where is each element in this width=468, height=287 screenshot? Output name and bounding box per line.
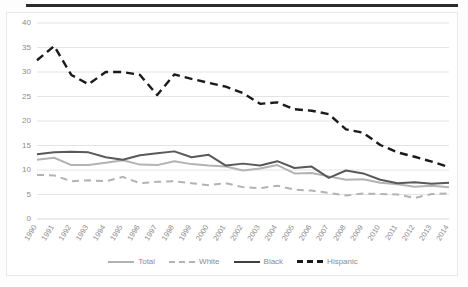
legend-item-white: White — [169, 257, 219, 266]
x-axis-tick-label: 2000 — [194, 223, 210, 242]
chart-card: 0510152025303540199019911992199319941995… — [6, 12, 458, 276]
legend-swatch-white — [169, 261, 195, 263]
x-axis-tick-label: 2009 — [348, 223, 364, 242]
legend-label-black: Black — [264, 257, 284, 266]
series-line-total — [37, 158, 449, 187]
x-axis-tick-label: 2008 — [331, 223, 347, 242]
y-axis-tick-label: 25 — [22, 92, 31, 101]
y-axis-tick-label: 0 — [27, 214, 32, 223]
y-axis-tick-label: 5 — [27, 190, 32, 199]
x-axis-tick-label: 1995 — [108, 223, 124, 242]
y-axis-tick-label: 15 — [22, 141, 31, 150]
x-axis-tick-label: 2011 — [383, 223, 399, 241]
legend-item-black: Black — [234, 257, 284, 266]
chart-legend: Total White Black Hispanic — [7, 257, 459, 266]
x-axis-tick-label: 1993 — [74, 223, 90, 242]
x-axis-tick-label: 2005 — [280, 223, 296, 242]
x-axis-tick-label: 1997 — [142, 223, 158, 242]
y-axis-tick-label: 40 — [22, 18, 31, 27]
x-axis-tick-label: 2003 — [245, 223, 261, 242]
x-axis-tick-label: 2010 — [366, 223, 382, 242]
x-axis-tick-label: 2006 — [297, 223, 313, 242]
x-axis-tick-label: 1996 — [125, 223, 141, 242]
x-axis-tick-label: 2007 — [314, 223, 330, 242]
x-axis-tick-label: 2014 — [434, 223, 450, 242]
x-axis-tick-label: 2012 — [400, 223, 416, 242]
x-axis-tick-label: 1990 — [22, 223, 38, 242]
chart-screenshot: 0510152025303540199019911992199319941995… — [0, 0, 468, 287]
legend-item-hispanic: Hispanic — [297, 257, 358, 266]
line-chart-svg: 0510152025303540199019911992199319941995… — [7, 13, 459, 277]
y-axis-tick-label: 10 — [22, 165, 31, 174]
plot-area: 0510152025303540199019911992199319941995… — [7, 13, 459, 277]
x-axis-tick-label: 1998 — [160, 223, 176, 242]
y-axis-tick-label: 20 — [22, 116, 31, 125]
series-line-black — [37, 151, 449, 183]
top-divider-rule — [26, 4, 458, 7]
legend-swatch-hispanic — [297, 260, 323, 263]
x-axis-tick-label: 2004 — [263, 223, 279, 242]
legend-swatch-black — [234, 261, 260, 263]
legend-label-total: Total — [138, 257, 155, 266]
x-axis-tick-label: 1994 — [91, 223, 107, 242]
y-axis-tick-label: 30 — [22, 67, 31, 76]
x-axis-tick-label: 1991 — [39, 223, 55, 242]
series-line-hispanic — [37, 46, 449, 167]
x-axis-tick-label: 2002 — [228, 223, 244, 242]
legend-swatch-total — [108, 261, 134, 263]
x-axis-tick-label: 1992 — [57, 223, 73, 242]
x-axis-tick-label: 1999 — [177, 223, 193, 242]
x-axis-tick-label: 2001 — [211, 223, 227, 242]
legend-item-total: Total — [108, 257, 155, 266]
y-axis-tick-label: 35 — [22, 43, 31, 52]
legend-label-white: White — [199, 257, 219, 266]
x-axis-tick-label: 2013 — [417, 223, 433, 242]
legend-label-hispanic: Hispanic — [327, 257, 358, 266]
